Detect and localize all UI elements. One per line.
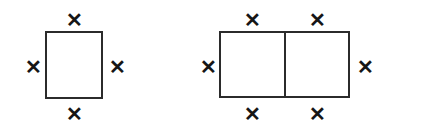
x-mark-icon-bottom: ✕ <box>66 103 83 125</box>
figure-single-square: ✕✕✕✕ <box>25 9 126 125</box>
figure-double-square: ✕✕✕✕✕✕ <box>200 9 374 125</box>
x-mark-icon-left: ✕ <box>25 56 42 78</box>
x-mark-icon-bottom-right: ✕ <box>309 103 326 125</box>
x-mark-icon-bottom-left: ✕ <box>244 103 261 125</box>
x-mark-icon-top: ✕ <box>66 9 83 31</box>
x-mark-icon-left: ✕ <box>200 56 217 78</box>
x-mark-icon-right: ✕ <box>109 56 126 78</box>
x-mark-icon-right: ✕ <box>357 56 374 78</box>
x-mark-icon-top-right: ✕ <box>309 9 326 31</box>
x-mark-icon-top-left: ✕ <box>244 9 261 31</box>
diagram-canvas: ✕✕✕✕✕✕✕✕✕✕ <box>0 0 436 133</box>
figure-outline <box>46 32 102 98</box>
diagram-svg: ✕✕✕✕✕✕✕✕✕✕ <box>0 0 436 133</box>
